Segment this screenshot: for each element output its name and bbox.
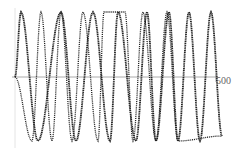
x-axis-end-label: 500 xyxy=(216,75,231,86)
chart-plot-area xyxy=(0,0,245,151)
